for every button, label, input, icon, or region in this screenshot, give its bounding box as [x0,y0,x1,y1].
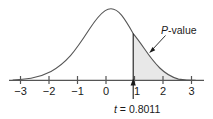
chart-canvas [0,0,213,119]
x-tick-label-2: 2 [152,85,174,97]
x-tick-label-minus2: −2 [38,85,60,97]
pvalue-leader-line [149,36,165,54]
pvalue-annotation-symbol: P [161,24,168,36]
x-tick-label-minus1: −1 [67,85,89,97]
x-tick-label-0: 0 [95,85,117,97]
pvalue-annotation: P-value [161,24,197,36]
x-tick-label-3: 3 [181,85,203,97]
test-statistic-label: t = 0.8011 [114,103,160,115]
x-tick-label-minus3: −3 [10,85,32,97]
x-tick-label-1: 1 [126,85,148,97]
distribution-curve [13,9,196,80]
t-distribution-pvalue-figure: −3 −2 −1 0 1 2 3 P-value t = 0.8011 [0,0,213,119]
test-statistic-value: = 0.8011 [117,103,160,115]
pvalue-annotation-text: -value [168,24,197,36]
pvalue-shaded-region [133,34,195,81]
